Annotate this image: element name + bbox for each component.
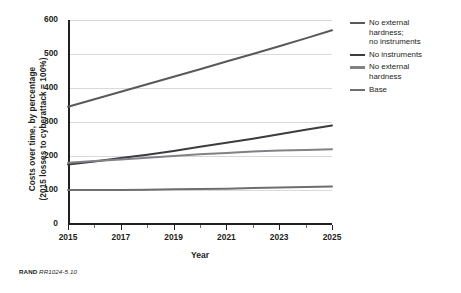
x-axis-tick-label: 2021 xyxy=(206,232,246,242)
x-axis-tick-label: 2019 xyxy=(154,232,194,242)
legend-item-label: No externalhardness;no instruments xyxy=(369,18,421,47)
legend-item-label: No externalhardness xyxy=(369,62,409,81)
series-lines xyxy=(68,20,332,224)
series-line-4 xyxy=(68,187,332,190)
legend-item-3[interactable]: No externalhardness xyxy=(350,62,458,81)
legend: No externalhardness;no instrumentsNo ins… xyxy=(350,18,458,97)
legend-label-line: hardness xyxy=(369,72,409,82)
legend-label-line: hardness; xyxy=(369,28,421,38)
x-axis-tick-label: 2023 xyxy=(259,232,299,242)
y-axis-tick-label: 500 xyxy=(22,49,58,58)
x-axis-tick-label: 2025 xyxy=(312,232,352,242)
x-axis-tick-major xyxy=(332,225,333,230)
legend-swatch-icon xyxy=(350,89,365,91)
legend-label-line: No external xyxy=(369,18,421,28)
x-axis-tick-major xyxy=(226,225,227,230)
x-axis-tick-minor xyxy=(253,225,254,228)
legend-swatch-icon xyxy=(350,66,365,68)
y-axis-tick-label: 300 xyxy=(22,117,58,126)
legend-item-label: No instruments xyxy=(369,50,422,60)
legend-label-line: No external xyxy=(369,62,409,72)
x-axis-tick-label: 2015 xyxy=(48,232,88,242)
legend-label-line: no instruments xyxy=(369,37,421,47)
legend-item-label: Base xyxy=(369,85,387,95)
y-axis-tick-label: 100 xyxy=(22,185,58,194)
legend-item-4[interactable]: Base xyxy=(350,85,458,95)
x-axis-tick-label: 2017 xyxy=(101,232,141,242)
y-axis-tick-label: 600 xyxy=(22,15,58,24)
y-axis-tick-label: 200 xyxy=(22,151,58,160)
legend-label-line: Base xyxy=(369,85,387,95)
x-axis-tick-minor xyxy=(306,225,307,228)
series-line-3 xyxy=(68,149,332,163)
figure-container: Costs over time, by percentage (2015 los… xyxy=(0,0,461,293)
y-axis-tick-label: 400 xyxy=(22,83,58,92)
x-axis-tick-major xyxy=(279,225,280,230)
legend-item-1[interactable]: No externalhardness;no instruments xyxy=(350,18,458,47)
figure-caption: RAND RR1024-5.10 xyxy=(19,268,77,275)
series-line-2 xyxy=(68,125,332,164)
legend-item-2[interactable]: No instruments xyxy=(350,50,458,60)
x-axis-title: Year xyxy=(68,250,332,260)
caption-code: RR1024-5.10 xyxy=(39,268,77,275)
x-axis-tick-minor xyxy=(200,225,201,228)
legend-swatch-icon xyxy=(350,22,365,24)
x-axis-tick-minor xyxy=(147,225,148,228)
caption-prefix: RAND xyxy=(19,268,37,275)
x-axis-tick-major xyxy=(174,225,175,230)
x-axis-tick-minor xyxy=(94,225,95,228)
legend-label-line: No instruments xyxy=(369,50,422,60)
x-axis-tick-major xyxy=(68,225,69,230)
y-axis-tick-label: 0 xyxy=(22,219,58,228)
plot-area: 6005004003002001000 20152017201920212023… xyxy=(68,20,332,224)
legend-swatch-icon xyxy=(350,54,365,56)
x-axis-tick-major xyxy=(121,225,122,230)
series-line-1 xyxy=(68,30,332,107)
